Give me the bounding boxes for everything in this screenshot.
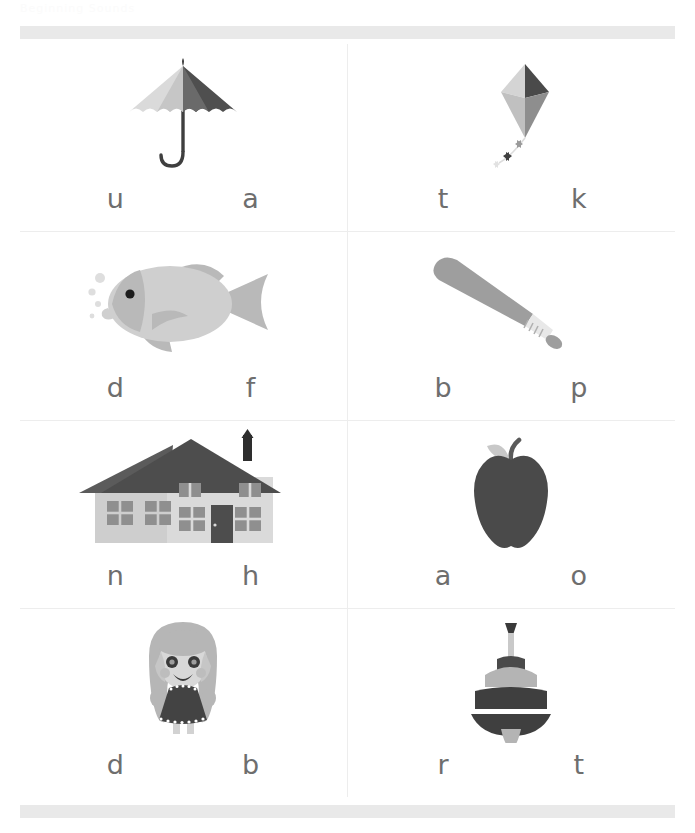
choice-option[interactable]: a — [376, 562, 512, 589]
doll-illustration — [20, 609, 347, 751]
worksheet-page: Beginning Sounds u a — [0, 0, 695, 833]
fish-illustration — [20, 232, 347, 373]
choice-option[interactable]: d — [48, 751, 183, 778]
choice-option[interactable]: p — [511, 374, 647, 401]
choice-option[interactable]: h — [183, 562, 318, 589]
choice-row: d b — [20, 751, 347, 797]
choice-row: u a — [20, 185, 347, 231]
bottom-rule-bar — [20, 805, 675, 818]
choice-option[interactable]: t — [376, 185, 512, 212]
picture-choice-grid: u a — [20, 44, 675, 797]
worksheet-item: b p — [348, 232, 676, 420]
house-illustration — [20, 421, 347, 562]
kite-illustration — [348, 44, 676, 185]
spinning-top-illustration — [348, 609, 676, 751]
choice-option[interactable]: a — [183, 185, 318, 212]
choice-option[interactable]: u — [48, 185, 183, 212]
choice-option[interactable]: n — [48, 562, 183, 589]
choice-option[interactable]: b — [183, 751, 318, 778]
worksheet-item: a o — [348, 421, 676, 609]
worksheet-item: r t — [348, 609, 676, 797]
choice-option[interactable]: b — [376, 374, 512, 401]
worksheet-item: t k — [348, 44, 676, 232]
choice-option[interactable]: t — [511, 751, 647, 778]
choice-row: r t — [348, 751, 676, 797]
worksheet-item: d b — [20, 609, 348, 797]
choice-row: d f — [20, 374, 347, 420]
choice-option[interactable]: r — [376, 751, 512, 778]
choice-option[interactable]: d — [48, 374, 183, 401]
apple-illustration — [348, 421, 676, 562]
worksheet-item: n h — [20, 421, 348, 609]
worksheet-item: d f — [20, 232, 348, 420]
choice-option[interactable]: f — [183, 374, 318, 401]
choice-row: b p — [348, 374, 676, 420]
baseball-bat-illustration — [348, 232, 676, 373]
choice-option[interactable]: k — [511, 185, 647, 212]
choice-row: a o — [348, 562, 676, 608]
choice-row: n h — [20, 562, 347, 608]
page-title: Beginning Sounds — [20, 2, 135, 15]
choice-option[interactable]: o — [511, 562, 647, 589]
choice-row: t k — [348, 185, 676, 231]
worksheet-item: u a — [20, 44, 348, 232]
top-rule-bar — [20, 26, 675, 39]
umbrella-illustration — [20, 44, 347, 185]
